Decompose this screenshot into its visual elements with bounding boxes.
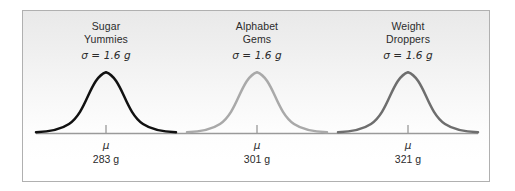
normal-curve-sugar-yummies (36, 72, 176, 132)
sigma-label: σ = 1.6 g (46, 49, 166, 62)
axis-label-mean-alphabet-gems: μ 301 g (197, 139, 317, 166)
normal-curve-alphabet-gems (187, 72, 327, 132)
mu-value: 283 g (46, 153, 166, 166)
figure-root: Sugar Yummies σ = 1.6 g μ 283 g Alphabet… (0, 0, 515, 191)
curve-name-line-2: Yummies (46, 33, 166, 46)
curve-name-line-2: Gems (197, 33, 317, 46)
axis-label-mean-weight-droppers: μ 321 g (348, 139, 468, 166)
sigma-label: σ = 1.6 g (197, 49, 317, 62)
mu-value: 301 g (197, 153, 317, 166)
curve-name-line-1: Alphabet (197, 20, 317, 33)
curve-name-line-2: Droppers (348, 33, 468, 46)
normal-curve-weight-droppers (338, 72, 478, 132)
curve-name-line-1: Sugar (46, 20, 166, 33)
mu-symbol: μ (197, 139, 317, 152)
curve-label-sugar-yummies: Sugar Yummies σ = 1.6 g (46, 20, 166, 62)
curve-name-line-1: Weight (348, 20, 468, 33)
mu-value: 321 g (348, 153, 468, 166)
axis-label-mean-sugar-yummies: μ 283 g (46, 139, 166, 166)
curve-label-alphabet-gems: Alphabet Gems σ = 1.6 g (197, 20, 317, 62)
mu-symbol: μ (46, 139, 166, 152)
sigma-label: σ = 1.6 g (348, 49, 468, 62)
figure-panel: Sugar Yummies σ = 1.6 g μ 283 g Alphabet… (22, 10, 490, 182)
curve-label-weight-droppers: Weight Droppers σ = 1.6 g (348, 20, 468, 62)
mu-symbol: μ (348, 139, 468, 152)
